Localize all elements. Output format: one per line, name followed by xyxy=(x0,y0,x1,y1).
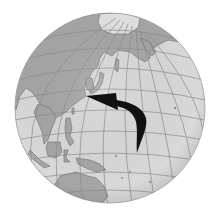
globe-figure xyxy=(0,0,217,218)
globe-shading xyxy=(15,13,205,203)
globe-svg xyxy=(0,0,217,218)
